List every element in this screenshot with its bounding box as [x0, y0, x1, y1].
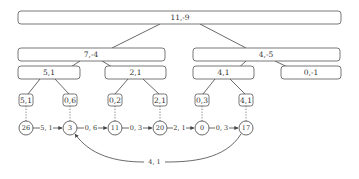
- chain-node-2: 3: [63, 121, 77, 135]
- tree-node-level2-right: 4,-5: [193, 48, 340, 61]
- tree-leaf-1: 5,1: [19, 94, 33, 106]
- tree-leaf-3: 0,2: [108, 94, 122, 106]
- node-label: 0: [200, 124, 204, 132]
- tree-node-level3-2: 2,1: [105, 66, 166, 79]
- tree-node-root: 11,-9: [18, 11, 341, 24]
- tree-leaf-2: 0,6: [63, 94, 77, 106]
- node-label: 20: [156, 124, 164, 132]
- chain-node-4: 20: [153, 121, 167, 135]
- node-label: 26: [22, 124, 30, 132]
- chain-node-1: 26: [19, 121, 33, 135]
- dotted-connectors: [26, 106, 246, 121]
- node-label: 4,1: [218, 68, 230, 77]
- tree-node-level3-3: 4,1: [193, 66, 254, 79]
- node-label: 4,-5: [259, 50, 274, 59]
- chain-node-6: 17: [239, 121, 253, 135]
- edge-label: 0, 3: [216, 124, 228, 132]
- tree-leaf-5: 0,3: [195, 94, 209, 106]
- node-label: 17: [242, 124, 250, 132]
- node-label: 0,-1: [304, 68, 318, 77]
- node-label: 5,1: [20, 96, 32, 105]
- edge-label: 5, 1: [40, 124, 52, 132]
- chain-node-5: 0: [195, 121, 209, 135]
- tree-node-level2-left: 7,-4: [18, 48, 165, 61]
- node-label: 11: [111, 124, 119, 132]
- chain-node-3: 11: [108, 121, 122, 135]
- tree-leaf-4: 2,1: [153, 94, 167, 106]
- node-label: 0,3: [196, 96, 208, 105]
- tree-diagram: 11,-9 7,-4 4,-5 5,1 2,1 4,1 0,-1 5,1 0,6…: [0, 0, 359, 179]
- tree-node-level3-4: 0,-1: [281, 66, 341, 79]
- node-label: 0,2: [109, 96, 121, 105]
- tree-leaf-6: 4,1: [239, 94, 253, 106]
- tree-node-level3-1: 5,1: [18, 66, 80, 79]
- edge-label: 0, 6: [85, 124, 97, 132]
- node-label: 7,-4: [84, 50, 99, 59]
- edge-label: 0, 3: [130, 124, 142, 132]
- edge-label: 4, 1: [148, 158, 160, 166]
- node-label: 11,-9: [170, 13, 189, 22]
- node-label: 2,1: [154, 96, 166, 105]
- node-label: 0,6: [64, 96, 76, 105]
- back-edge: 4, 1: [75, 134, 241, 166]
- node-label: 5,1: [43, 68, 55, 77]
- node-label: 3: [68, 124, 72, 132]
- node-label: 4,1: [240, 96, 252, 105]
- edge-label: 2, 1: [173, 124, 185, 132]
- node-label: 2,1: [130, 68, 142, 77]
